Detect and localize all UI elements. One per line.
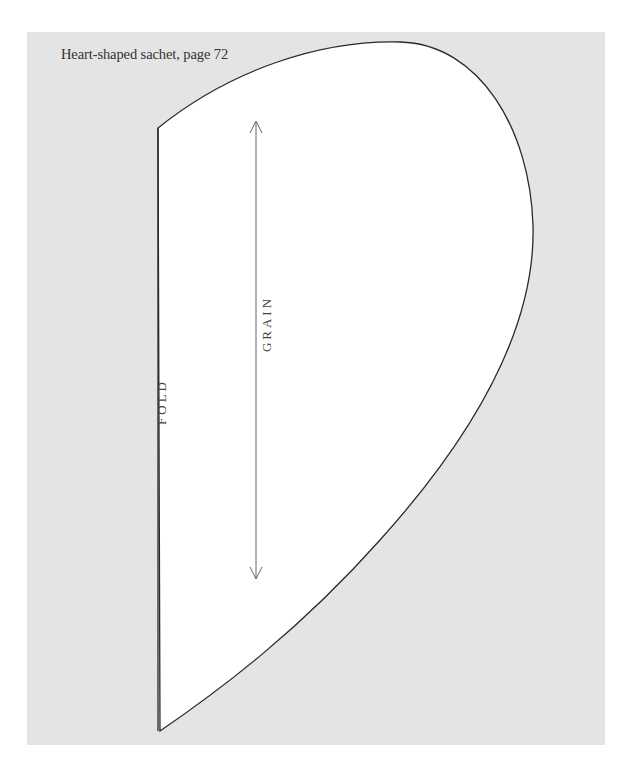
fold-label: FOLD [154,376,170,428]
grain-label: GRAIN [259,293,275,355]
pattern-outline [158,42,533,731]
heart-sachet-pattern-piece [0,0,630,767]
